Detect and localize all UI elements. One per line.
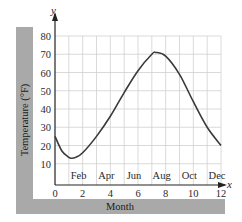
- y-axis-symbol: y: [50, 4, 56, 16]
- x-tick-label: 12: [216, 188, 227, 199]
- x-tick-label: 8: [163, 188, 168, 199]
- line-chart: 1020304050607080024681012 FebAprJunAugOc…: [0, 0, 242, 222]
- x-tick-label: 0: [52, 188, 57, 199]
- month-label: Dec: [209, 170, 226, 181]
- grid-lines: [55, 36, 221, 185]
- y-tick-label: 30: [41, 122, 52, 133]
- y-tick-label: 70: [41, 49, 52, 60]
- x-tick-label: 6: [135, 188, 140, 199]
- y-tick-label: 40: [41, 104, 52, 115]
- axes: [52, 12, 227, 188]
- month-labels: FebAprJunAugOctDec: [71, 170, 226, 181]
- month-label: Aug: [153, 170, 172, 181]
- x-tick-label: 2: [80, 188, 85, 199]
- y-tick-label: 10: [41, 159, 52, 170]
- month-label: Jun: [127, 170, 142, 181]
- month-label: Feb: [71, 170, 87, 181]
- y-tick-label: 50: [41, 86, 52, 97]
- y-tick-label: 60: [41, 68, 52, 79]
- x-tick-label: 4: [108, 188, 114, 199]
- month-label: Apr: [98, 170, 115, 181]
- month-label: Oct: [182, 170, 197, 181]
- y-tick-label: 20: [41, 141, 52, 152]
- x-axis-symbol: x: [226, 178, 232, 190]
- y-tick-label: 80: [41, 31, 52, 42]
- x-tick-label: 10: [188, 188, 199, 199]
